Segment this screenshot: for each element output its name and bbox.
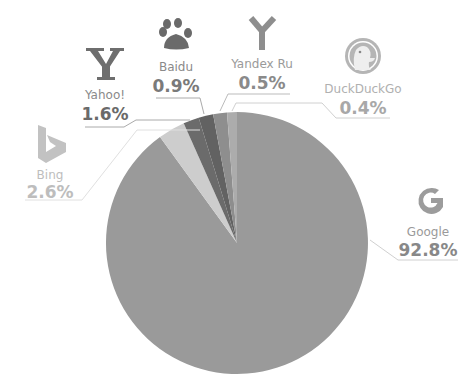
label-baidu: Baidu 0.9%	[152, 18, 199, 96]
label-yandex-value: 0.5%	[238, 73, 285, 93]
label-google-value: 92.8%	[399, 240, 458, 260]
search-engine-share-pie-chart: Yahoo! 1.6% Baidu 0.9% Yandex Ru 0.5%	[0, 0, 475, 385]
label-yahoo-value: 1.6%	[81, 104, 128, 124]
label-yandex-name: Yandex Ru	[230, 57, 293, 71]
label-bing: Bing 2.6%	[26, 125, 73, 202]
label-yandex: Yandex Ru 0.5%	[230, 18, 293, 93]
yahoo-y-icon	[86, 48, 124, 80]
label-baidu-value: 0.9%	[152, 76, 199, 96]
label-duckduckgo: DuckDuckGo 0.4%	[324, 38, 401, 118]
label-baidu-name: Baidu	[159, 60, 193, 74]
label-bing-name: Bing	[37, 168, 64, 182]
duck-icon	[345, 38, 381, 74]
label-bing-value: 2.6%	[26, 182, 73, 202]
label-yahoo-name: Yahoo!	[84, 88, 125, 102]
label-duckduckgo-name: DuckDuckGo	[324, 82, 401, 96]
pie	[106, 112, 368, 374]
label-google: Google 92.8%	[399, 188, 458, 260]
label-google-name: Google	[407, 225, 449, 239]
bing-icon	[38, 125, 66, 163]
yandex-y-icon	[251, 18, 274, 50]
label-yahoo: Yahoo! 1.6%	[81, 48, 128, 124]
leader-line-baidu	[156, 98, 204, 114]
google-g-icon	[418, 188, 443, 214]
label-duckduckgo-value: 0.4%	[339, 98, 386, 118]
paw-icon	[159, 18, 192, 50]
